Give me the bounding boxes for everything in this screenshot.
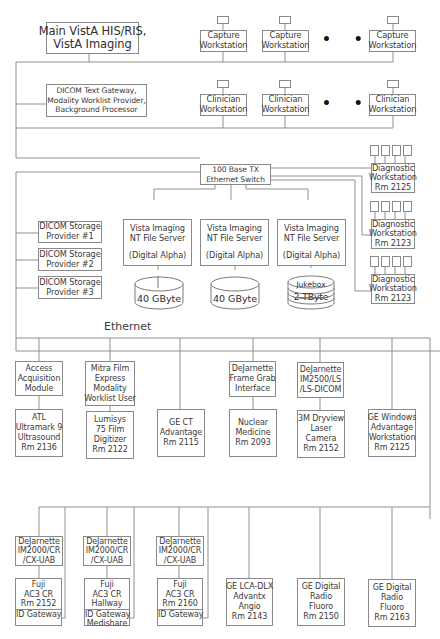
id-gateway-2-label: ID Gateway — [85, 610, 129, 620]
storage-3-line-2: Provider #3 — [46, 288, 93, 298]
nuclear-medicine: Nuclear Medicine Rm 2093 — [229, 409, 277, 457]
diagnostic-monitor-icon — [381, 256, 390, 267]
fuji-ac3-cr-1: Fuji AC3 CR Rm 2152 ID Gateway — [15, 578, 62, 626]
gewin-line-2: Advantage — [371, 423, 413, 433]
3m-dryview-laser-camera: 3M Dryview Laser Camera Rm 2152 — [297, 410, 345, 458]
angio-line-2: Advantx — [233, 592, 265, 602]
ge-digital-radio-fluoro-2163: GE Digital Radio Fluoro Rm 2163 — [368, 579, 416, 627]
im2500-line-3: /LS-DICOM — [300, 385, 342, 395]
jukebox-capacity-label: 2 TByte — [287, 292, 335, 302]
atl-line-4: Rm 2136 — [21, 443, 57, 453]
aam-line-3: Module — [25, 384, 54, 394]
fuji-1-line-3: Rm 2152 — [21, 599, 57, 609]
lumisys-film-digitizer: Lumisys 75 Film Digitizer Rm 2122 — [86, 411, 134, 459]
fs-2-line-2: NT File Server — [207, 234, 262, 244]
nucmed-line-3: Rm 2093 — [235, 438, 271, 448]
capture-monitor-icon-3 — [387, 16, 399, 24]
angio-line-1: GE LCA-DLX — [226, 582, 273, 592]
mitra-line-1: Mitra Film — [91, 364, 129, 374]
dicom-storage-provider-1: DICOM Storage Provider #1 — [38, 221, 102, 243]
fs-3-line-4: (Digital Alpha) — [283, 251, 340, 261]
clinician-ws-2-line-2: Workstation — [262, 105, 310, 115]
mitra-line-2: Express — [95, 374, 126, 384]
lumisys-line-1: Lumisys — [94, 415, 126, 425]
gewin-line-4: Rm 2125 — [374, 443, 410, 453]
fuji-3-line-3: Rm 2160 — [162, 599, 198, 609]
diagnostic-workstation-2: Diagnostic Workstation Rm 2123 — [371, 219, 415, 249]
cr-if-2-line-1: DeJarnette — [86, 537, 128, 547]
dejarnette-im2000-1: DeJarnette IM2000/CR /CX-UAB — [15, 536, 63, 566]
diagnostic-monitor-icon — [370, 145, 379, 156]
fuji-2-line-1: Fuji — [100, 580, 113, 590]
nucmed-line-1: Nuclear — [238, 418, 268, 428]
dejarnette-im2500: DeJarnette IM2500/LS /LS-DICOM — [297, 362, 344, 398]
id-gateway-2: ID Gateway Medishare — [85, 609, 129, 629]
disk-2-label: 40 GByte — [210, 293, 260, 304]
diagnostic-monitor-icon — [392, 145, 401, 156]
fuji-ac3-cr-3: Fuji AC3 CR Rm 2160 ID Gateway — [157, 578, 203, 626]
angio-line-4: Rm 2143 — [232, 612, 268, 622]
fuji-2-line-3: Hallway — [92, 599, 123, 609]
id-gateway-2-sublabel: Medishare — [85, 619, 129, 629]
cr-if-3-line-1: DeJarnette — [159, 537, 201, 547]
fuji-1-line-2: AC3 CR — [24, 590, 53, 600]
cr-if-1-line-2: IM2000/CR — [18, 546, 61, 556]
framegrab-line-2: Frame Grab — [230, 374, 276, 384]
clinician-ws-1-line-2: Workstation — [200, 105, 248, 115]
dejarnette-im2000-3: DeJarnette IM2000/CR /CX-UAB — [156, 536, 204, 566]
im2500-line-1: DeJarnette — [300, 365, 342, 375]
fluoro2-line-1: GE Digital — [373, 583, 412, 593]
fluoro2-line-2: Radio — [381, 593, 403, 603]
diagnostic-monitor-icon — [370, 201, 379, 212]
nucmed-line-2: Medicine — [236, 428, 271, 438]
capture-workstation-3: Capture Workstation — [369, 30, 416, 52]
gewin-line-1: GE Windows — [368, 413, 417, 423]
id-gateway-3: ID Gateway — [158, 609, 202, 620]
ethernet-label: Ethernet — [104, 320, 151, 333]
fluoro2-line-3: Fluoro — [380, 603, 404, 613]
access-acquisition-module: Access Acquisition Module — [15, 361, 63, 396]
lumisys-line-3: Digitizer — [94, 435, 127, 445]
mitra-line-4: Worklist User — [84, 394, 136, 404]
ge-digital-radio-fluoro-2150: GE Digital Radio Fluoro Rm 2150 — [297, 578, 345, 626]
diagnostic-monitor-icon — [403, 256, 412, 267]
fuji-3-line-2: AC3 CR — [165, 590, 194, 600]
id-gateway-1-label: ID Gateway — [16, 610, 61, 620]
fluoro2-line-4: Rm 2163 — [374, 613, 410, 623]
dryview-line-3: Camera — [306, 434, 337, 444]
dicom-storage-provider-3: DICOM Storage Provider #3 — [38, 276, 102, 299]
switch-line-2: Ethernet Switch — [206, 175, 265, 185]
nt-file-server-2: Vista Imaging NT File Server (Digital Al… — [200, 219, 269, 266]
dryview-line-1: 3M Dryview — [298, 414, 344, 424]
lumisys-line-4: Rm 2122 — [92, 445, 128, 455]
clinician-workstation-3: Clinician Workstation — [369, 94, 416, 116]
fs-2-line-4: (Digital Alpha) — [206, 251, 263, 261]
cr-if-3-line-3: /CX-UAB — [164, 556, 196, 566]
diag-3-line-3: Rm 2123 — [375, 294, 411, 304]
clinician-workstation-2: Clinician Workstation — [262, 94, 309, 116]
diagnostic-monitor-icon — [370, 256, 379, 267]
dryview-line-2: Laser — [310, 424, 331, 434]
diagnostic-monitor-icon — [392, 201, 401, 212]
fs-1-line-2: NT File Server — [130, 234, 185, 244]
nt-file-server-3: Vista Imaging NT File Server (Digital Al… — [277, 219, 346, 266]
fs-1-line-4: (Digital Alpha) — [129, 251, 186, 261]
storage-2-line-2: Provider #2 — [46, 260, 93, 270]
clinician-monitor-icon-3 — [387, 80, 399, 88]
dejarnette-frame-grab: DeJarnette Frame Grab Interface — [229, 361, 276, 397]
fluoro1-line-1: GE Digital — [302, 582, 341, 592]
diagnostic-monitor-icon — [403, 145, 412, 156]
jukebox-top-label: Jukebox — [287, 280, 335, 289]
ge-ct-advantage: GE CT Advantage Rm 2115 — [157, 409, 205, 457]
cr-if-1-line-1: DeJarnette — [18, 537, 60, 547]
clinician-monitor-icon-2 — [279, 80, 291, 88]
nt-file-server-1: Vista Imaging NT File Server (Digital Al… — [123, 219, 192, 266]
main-system-line-2: VistA Imaging — [53, 38, 131, 51]
diagnostic-monitor-icon — [392, 256, 401, 267]
ethernet-switch-box: 100 Base TX Ethernet Switch — [200, 164, 271, 185]
fluoro1-line-4: Rm 2150 — [303, 612, 339, 622]
gect-line-3: Rm 2115 — [163, 438, 199, 448]
fs-3-line-2: NT File Server — [284, 234, 339, 244]
fuji-1-line-1: Fuji — [32, 580, 45, 590]
clinician-monitor-icon-1 — [217, 80, 229, 88]
